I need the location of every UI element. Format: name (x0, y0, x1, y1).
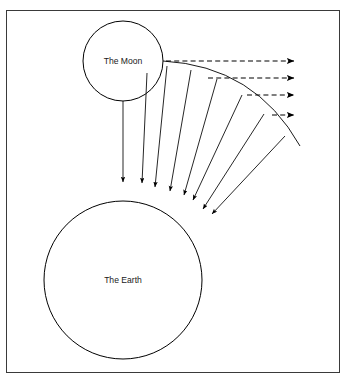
diagram-canvas: The Moon The Earth (0, 0, 347, 380)
diagram-border (7, 11, 340, 373)
earth-label: The Earth (104, 275, 142, 285)
newton-cannonball-diagram: The Moon The Earth (0, 0, 347, 380)
moon-label: The Moon (104, 56, 143, 66)
